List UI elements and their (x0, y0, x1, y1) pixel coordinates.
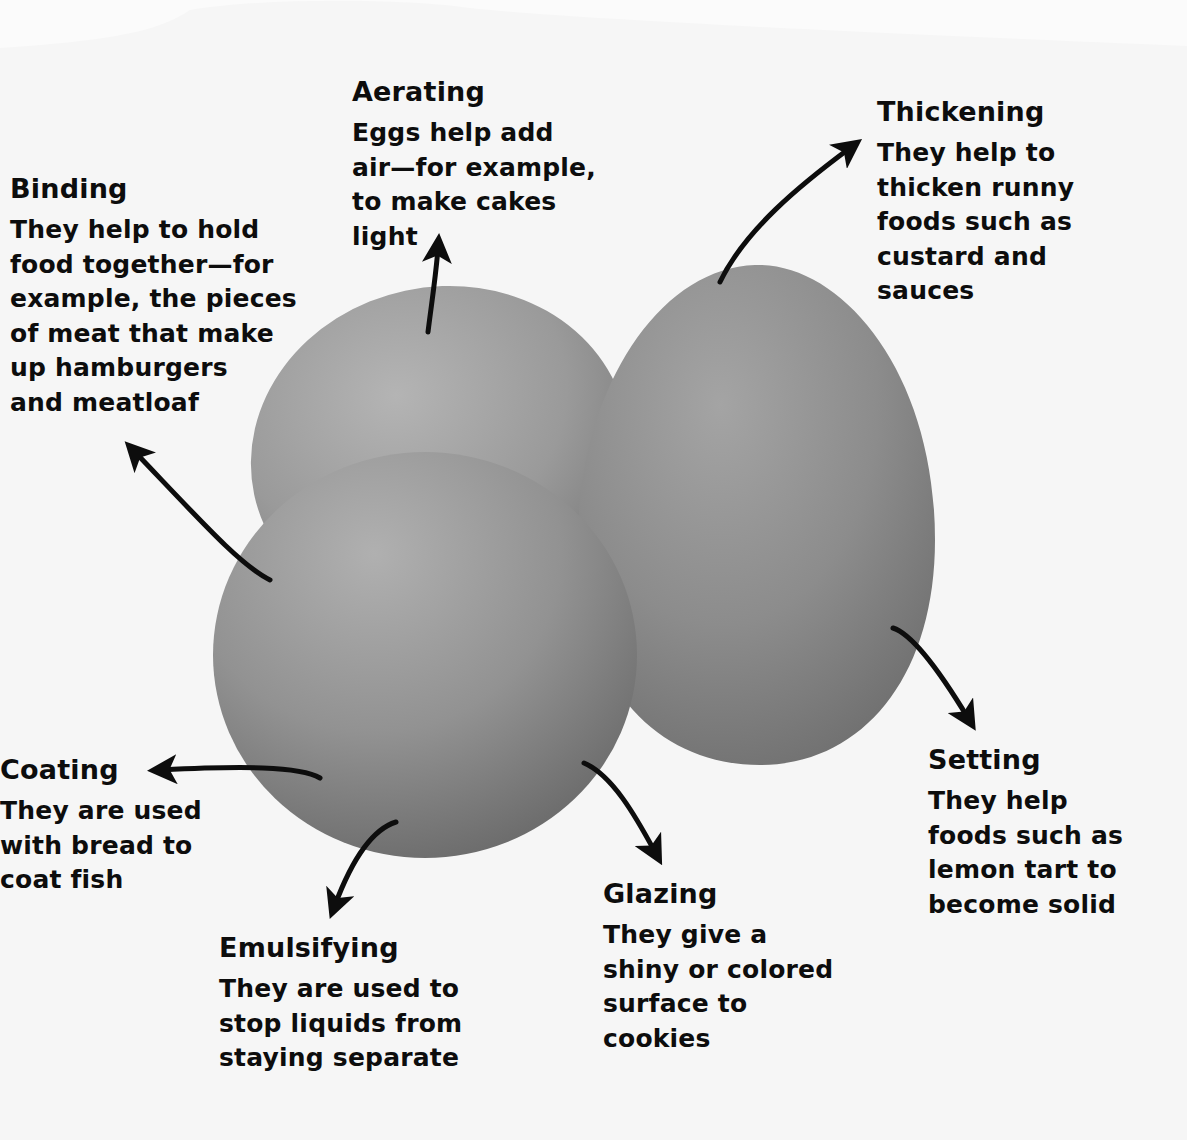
label-thickening-title: Thickening (877, 96, 1074, 128)
label-binding: Binding They help to hold food together—… (10, 173, 297, 420)
label-thickening-description: They help to thicken runny foods such as… (877, 136, 1074, 309)
label-coating-description: They are used with bread to coat fish (0, 794, 202, 898)
label-glazing: Glazing They give a shiny or colored sur… (603, 878, 833, 1056)
label-aerating-description: Eggs help add air—for example, to make c… (352, 116, 596, 254)
label-setting: Setting They help foods such as lemon ta… (928, 744, 1123, 922)
label-emulsifying-title: Emulsifying (219, 932, 462, 964)
label-glazing-description: They give a shiny or colored surface to … (603, 918, 833, 1056)
label-coating: Coating They are used with bread to coat… (0, 754, 202, 898)
label-aerating: Aerating Eggs help add air—for example, … (352, 76, 596, 254)
label-binding-description: They help to hold food together—for exam… (10, 213, 297, 420)
label-glazing-title: Glazing (603, 878, 833, 910)
label-emulsifying: Emulsifying They are used to stop liquid… (219, 932, 462, 1076)
label-coating-title: Coating (0, 754, 202, 786)
label-thickening: Thickening They help to thicken runny fo… (877, 96, 1074, 309)
label-binding-title: Binding (10, 173, 297, 205)
label-emulsifying-description: They are used to stop liquids from stayi… (219, 972, 462, 1076)
label-setting-title: Setting (928, 744, 1123, 776)
arrow-thickening (720, 148, 850, 282)
label-setting-description: They help foods such as lemon tart to be… (928, 784, 1123, 922)
label-aerating-title: Aerating (352, 76, 596, 108)
egg-front (213, 452, 637, 858)
